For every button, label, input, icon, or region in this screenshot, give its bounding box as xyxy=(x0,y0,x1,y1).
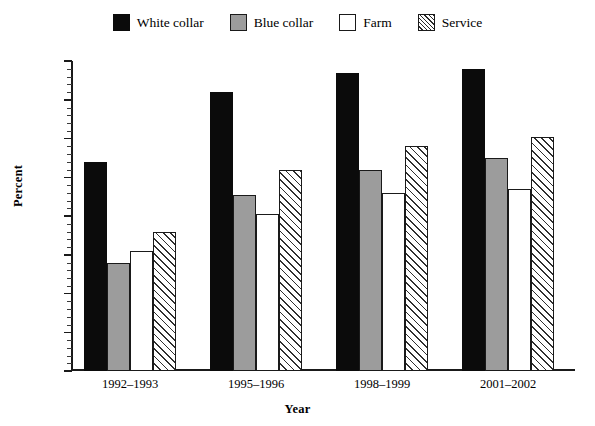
bar-chart: White collar Blue collar Farm Service 01… xyxy=(0,0,595,426)
bar-white-collar-1992-1993[interactable] xyxy=(84,162,107,371)
x-axis-title: Year xyxy=(0,402,595,417)
bar-white-collar-1998-1999[interactable] xyxy=(336,73,359,371)
x-tick-label-1992-1993: 1992–1993 xyxy=(102,378,158,391)
plot-area: 01020304050607080 Percent 1992–19931995–… xyxy=(0,0,595,426)
bar-service-2001-2002[interactable] xyxy=(531,137,554,371)
bar-farm-1995-1996[interactable] xyxy=(256,214,279,371)
bar-blue-collar-1998-1999[interactable] xyxy=(359,170,382,372)
bar-service-1992-1993[interactable] xyxy=(153,232,176,372)
x-tick-label-2001-2002: 2001–2002 xyxy=(480,378,536,391)
bar-blue-collar-1992-1993[interactable] xyxy=(107,263,130,372)
y-axis-title: Percent xyxy=(11,165,26,207)
bar-group-1998-1999 xyxy=(323,61,449,371)
bar-white-collar-2001-2002[interactable] xyxy=(462,69,485,371)
bar-group-1992-1993 xyxy=(71,61,197,371)
bar-blue-collar-1995-1996[interactable] xyxy=(233,195,256,371)
bar-farm-1998-1999[interactable] xyxy=(382,193,405,371)
bar-service-1998-1999[interactable] xyxy=(405,146,428,371)
bar-service-1995-1996[interactable] xyxy=(279,170,302,372)
bar-farm-1992-1993[interactable] xyxy=(130,251,153,371)
bar-group-1995-1996 xyxy=(197,61,323,371)
bar-farm-2001-2002[interactable] xyxy=(508,189,531,371)
bar-blue-collar-2001-2002[interactable] xyxy=(485,158,508,371)
bar-white-collar-1995-1996[interactable] xyxy=(210,92,233,371)
x-tick-label-1998-1999: 1998–1999 xyxy=(354,378,410,391)
x-tick-label-1995-1996: 1995–1996 xyxy=(228,378,284,391)
bars-layer xyxy=(71,61,575,371)
bar-group-2001-2002 xyxy=(449,61,575,371)
